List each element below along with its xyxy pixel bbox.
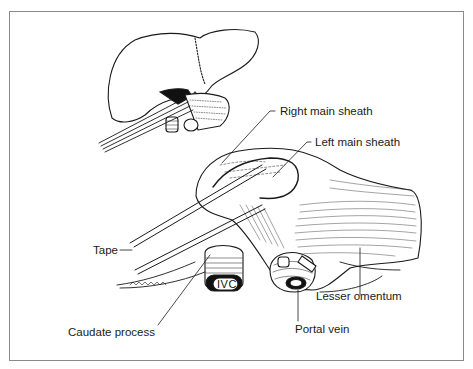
liver-inset-drawing (99, 30, 258, 152)
label-lesser-omentum: Lesser omentum (316, 290, 402, 303)
label-caudate-process: Caudate process (68, 326, 155, 339)
hilum-drawing (117, 148, 421, 292)
label-left-main-sheath: Left main sheath (315, 136, 400, 149)
label-right-main-sheath: Right main sheath (280, 105, 373, 118)
label-portal-vein: Portal vein (295, 323, 349, 336)
anatomical-illustration (0, 0, 473, 369)
label-ivc: IVC (217, 278, 237, 290)
label-tape: Tape (93, 244, 118, 257)
